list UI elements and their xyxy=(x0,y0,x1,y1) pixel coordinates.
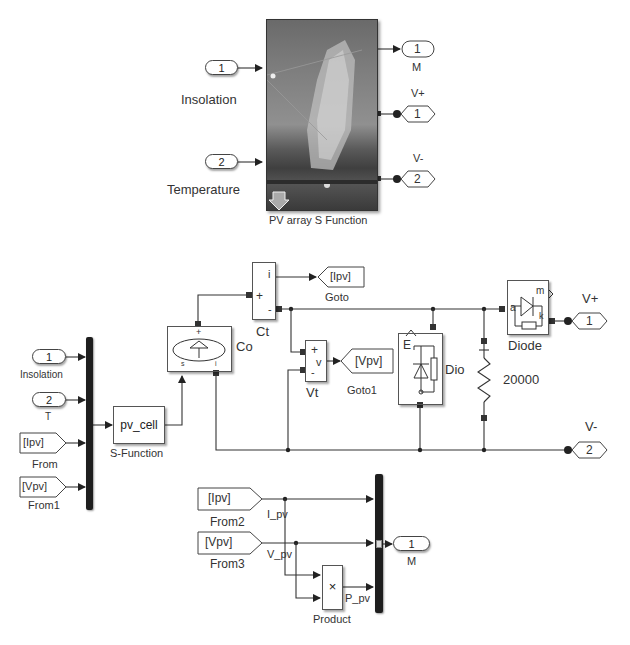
from2-label: From2 xyxy=(210,516,245,528)
resistor-value-label: 20000 xyxy=(503,373,539,386)
s-function-label: S-Function xyxy=(110,448,163,459)
mux-block-left[interactable] xyxy=(86,337,93,510)
dio-block[interactable]: E xyxy=(398,333,443,405)
top-outport-vplus-label: V+ xyxy=(411,88,425,99)
goto1-label: Goto1 xyxy=(347,385,377,396)
solar-panel-photo-icon xyxy=(267,20,378,211)
signal-name-v-pv: V_pv xyxy=(267,549,292,560)
inner-inport-t[interactable]: 2 xyxy=(32,392,66,407)
product-label: Product xyxy=(313,614,351,625)
inner-outport-m[interactable]: 1 xyxy=(393,536,430,551)
goto-ipv-tag[interactable]: [Ipv] xyxy=(330,271,351,282)
diode-block[interactable]: a m k xyxy=(507,280,549,335)
top-inport-insolation[interactable]: 1 xyxy=(205,60,238,75)
signal-name-p-pv: P_pv xyxy=(345,593,370,604)
inner-inport-insolation[interactable]: 1 xyxy=(32,349,66,364)
inner-outport-vminus-number[interactable]: 2 xyxy=(586,444,593,456)
current-sensor-block[interactable]: i + - xyxy=(252,262,276,320)
pv-cell-text: pv_cell xyxy=(120,418,157,432)
top-outport-m-label: M xyxy=(412,62,421,73)
co-label: Co xyxy=(236,340,253,353)
from3-label: From3 xyxy=(210,558,245,570)
top-outport-vplus-number[interactable]: 1 xyxy=(414,108,421,120)
mux-port-highlight xyxy=(376,540,382,548)
ct-port-minus: - xyxy=(268,304,272,315)
goto-label: Goto xyxy=(325,292,349,303)
ct-label: Ct xyxy=(256,325,269,338)
from1-vpv-tag[interactable]: [Vpv] xyxy=(22,481,47,492)
top-outport-vminus-label: V- xyxy=(413,153,423,164)
top-outport-m-number[interactable]: 1 xyxy=(414,43,421,55)
product-block[interactable]: × xyxy=(322,565,343,610)
ct-port-plus: + xyxy=(256,290,263,302)
co-port-s: s xyxy=(181,360,185,367)
ct-port-i: i xyxy=(268,269,270,280)
co-port-i: i xyxy=(215,360,217,367)
product-symbol: × xyxy=(329,579,337,594)
diode-port-a: a xyxy=(510,303,516,313)
inner-outport-vplus-label: V+ xyxy=(582,292,598,305)
inner-outport-vminus-label: V- xyxy=(585,420,597,433)
inner-outport-m-label: M xyxy=(407,556,416,567)
co-port-plus: + xyxy=(196,328,201,337)
top-inport-temperature-label: Temperature xyxy=(167,183,240,196)
dio-label: Dio xyxy=(445,363,465,376)
diode-label: Diode xyxy=(508,339,542,352)
top-inport-insolation-label: Insolation xyxy=(181,93,237,106)
vt-port-minus: - xyxy=(311,367,315,378)
pv-cell-s-function-block[interactable]: pv_cell xyxy=(113,406,165,444)
controlled-current-source-block[interactable]: + s i xyxy=(167,326,232,372)
signal-name-i-pv: I_pv xyxy=(267,509,288,520)
voltage-sensor-block[interactable]: + v - xyxy=(305,340,327,382)
vt-label: Vt xyxy=(306,386,318,399)
top-inport-temperature[interactable]: 2 xyxy=(205,154,238,169)
vt-port-plus: + xyxy=(311,344,318,356)
inner-inport-t-label: T xyxy=(45,412,51,422)
inner-outport-vplus-number[interactable]: 1 xyxy=(586,315,593,327)
dio-port-e: E xyxy=(403,339,411,351)
from1-block-label: From1 xyxy=(28,500,60,511)
top-outport-vminus-number[interactable]: 2 xyxy=(414,173,421,185)
from2-ipv-tag[interactable]: [Ipv] xyxy=(208,492,231,504)
inner-inport-insolation-label: Insolation xyxy=(20,370,63,380)
goto1-vpv-tag[interactable]: [Vpv] xyxy=(355,355,382,367)
diode-port-m: m xyxy=(536,286,544,296)
pv-array-block-label: PV array S Function xyxy=(269,215,367,226)
diode-port-k: k xyxy=(539,312,544,321)
from-ipv-tag[interactable]: [Ipv] xyxy=(23,437,44,448)
vt-port-v: v xyxy=(316,357,322,368)
from-block-label: From xyxy=(32,459,58,470)
pv-array-subsystem-block[interactable] xyxy=(266,19,378,211)
from3-vpv-tag[interactable]: [Vpv] xyxy=(205,536,232,548)
